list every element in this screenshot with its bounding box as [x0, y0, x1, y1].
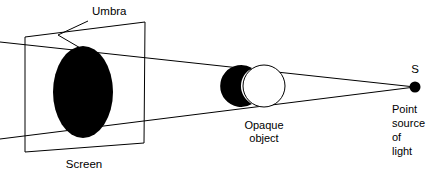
point-source-label-line3: of [392, 131, 402, 143]
screen-label: Screen [66, 158, 102, 170]
point-source-dot [410, 82, 421, 93]
point-source-label-line1: Point [392, 103, 417, 115]
source-marker-label: S [411, 63, 419, 75]
point-source-label-line2: source [392, 117, 425, 129]
opaque-object-label-line2: object [249, 132, 278, 144]
opaque-object-label-line1: Opaque [244, 119, 283, 131]
umbra-leader-line [58, 21, 88, 49]
umbra-ray-diagram: Umbra Screen Opaque object S Point sourc… [0, 0, 443, 174]
diagram-canvas: Umbra Screen Opaque object S Point sourc… [0, 0, 443, 174]
umbra-shadow-ellipse [53, 46, 113, 138]
umbra-label: Umbra [92, 5, 127, 17]
opaque-object-sphere [243, 65, 285, 107]
point-source-label-line4: light [392, 145, 412, 157]
